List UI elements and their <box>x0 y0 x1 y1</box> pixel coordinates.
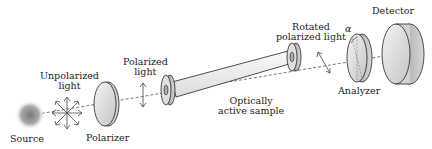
polarized-light-label-line2: light <box>123 67 168 77</box>
unpolarized-light-label: Unpolarized light <box>40 71 99 91</box>
polarized-light-label: Polarized light <box>123 57 168 77</box>
sample-label-line2: active sample <box>218 106 284 116</box>
rotated-light-label: Rotated polarized light <box>276 22 346 42</box>
analyzer-angle-label: α <box>345 24 351 34</box>
unpolarized-light-icon <box>52 97 82 129</box>
polarizer-label: Polarizer <box>86 133 129 143</box>
source-label: Source <box>10 134 44 144</box>
detector-icon <box>382 24 424 84</box>
detector-label: Detector <box>372 6 414 16</box>
rotated-light-label-line2: polarized light <box>276 32 346 42</box>
unpolarized-light-label-line2: light <box>40 81 99 91</box>
polarized-light-arrow-icon <box>140 83 146 107</box>
sample-label: Optically active sample <box>218 96 284 116</box>
rotated-light-arrow-icon <box>317 52 330 73</box>
analyzer-icon <box>347 34 372 82</box>
source-icon <box>15 100 45 130</box>
analyzer-label: Analyzer <box>338 86 380 96</box>
